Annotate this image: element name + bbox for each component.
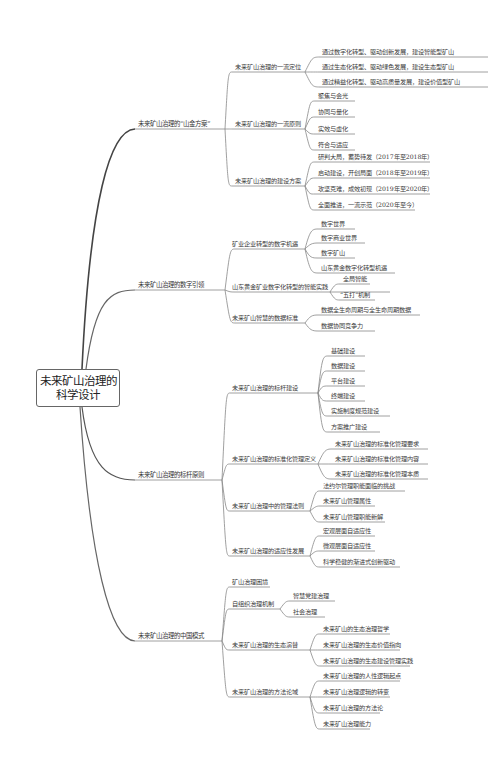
- node-construction-plan[interactable]: 未来矿山治理的建设方案: [235, 177, 301, 185]
- leaf[interactable]: 科学稳健的渐进式创新驱动: [323, 558, 395, 566]
- leaf[interactable]: 法约尔管理职能面临的挑战: [323, 482, 395, 490]
- leaf[interactable]: 未来矿山治理能力: [323, 720, 371, 728]
- node-self-organizing-mechanism[interactable]: 自组织治理机制: [232, 600, 274, 608]
- leaf[interactable]: 方案推广建设: [331, 423, 367, 431]
- leaf[interactable]: 符合与适应: [318, 141, 348, 149]
- leaf[interactable]: “五打”机制: [340, 291, 370, 299]
- leaf[interactable]: 未来矿山的生态治理哲学: [323, 625, 389, 633]
- node-methodology-domain[interactable]: 未来矿山治理的方法论域: [232, 688, 298, 696]
- leaf[interactable]: 未来矿山管理属性: [323, 497, 371, 505]
- branch-china-model[interactable]: 未来矿山治理的中国模式: [138, 632, 204, 640]
- leaf[interactable]: 未来矿山治理的标准化管理要求: [335, 440, 419, 448]
- leaf[interactable]: 未来矿山治理的方法论: [323, 704, 383, 712]
- leaf[interactable]: 通过生态化转型、驱动绿色发展，建设生态型矿山: [322, 63, 454, 71]
- leaf[interactable]: 未来矿山治理的生态价值指向: [323, 641, 401, 649]
- leaf[interactable]: 数据建设: [331, 362, 355, 370]
- leaf[interactable]: 实施制度规范建设: [331, 407, 379, 415]
- node-standardization-definition[interactable]: 未来矿山治理的标准化管理定义: [232, 455, 316, 463]
- leaf[interactable]: 实效与虚化: [318, 125, 348, 133]
- leaf[interactable]: 平台建设: [331, 377, 355, 385]
- leaf[interactable]: 未来矿山治理的标准化管理内容: [335, 455, 419, 463]
- leaf[interactable]: 数字世界: [321, 220, 345, 228]
- leaf[interactable]: 聚焦与会光: [318, 92, 348, 100]
- leaf[interactable]: 微观层面自适应性: [323, 542, 371, 550]
- leaf[interactable]: 通过精益化转型、驱动高质量发展，建设价值型矿山: [322, 78, 460, 86]
- leaf[interactable]: 数字商业世界: [321, 234, 357, 242]
- leaf[interactable]: 通过数字化转型、驱动创新发展，建设智能型矿山: [322, 48, 454, 56]
- leaf[interactable]: 未来矿山治理的生态建设管理实践: [323, 657, 413, 665]
- node-digital-opportunity[interactable]: 矿业企业转型的数字机遇: [232, 240, 298, 248]
- leaf[interactable]: 智慧党建治理: [293, 592, 329, 600]
- node-ecological-succession[interactable]: 未来矿山治理的生态演替: [232, 641, 298, 649]
- root-node[interactable]: 未来矿山治理的 科学设计: [36, 369, 120, 407]
- root-title-line1: 未来矿山治理的: [37, 374, 119, 388]
- node-benchmark-construction[interactable]: 未来矿山治理的标杆建设: [232, 384, 298, 392]
- node-adaptive-development[interactable]: 未来矿山治理的适应性发展: [232, 547, 304, 555]
- leaf[interactable]: 全面推进，一流示范（2020年至今）: [318, 201, 418, 209]
- leaf[interactable]: 未来矿山治理的标准化管理本质: [335, 470, 419, 478]
- leaf[interactable]: 终端建设: [331, 392, 355, 400]
- leaf[interactable]: 宏观层面自适应性: [323, 527, 371, 535]
- node-first-class-positioning[interactable]: 未来矿山治理的一流定位: [235, 63, 301, 71]
- leaf[interactable]: 基础建设: [331, 347, 355, 355]
- node-first-class-principle[interactable]: 未来矿山治理的一流原则: [235, 120, 301, 128]
- leaf[interactable]: 数据协同竞争力: [321, 322, 363, 330]
- root-title-line2: 科学设计: [37, 388, 119, 402]
- leaf[interactable]: 山东黄金数字化转型机遇: [321, 264, 387, 272]
- node-management-rules[interactable]: 未来矿山治理中的管理法则: [232, 502, 304, 510]
- branch-benchmark-principle[interactable]: 未来矿山治理的标杆原则: [138, 471, 204, 479]
- node-governance-dilemma[interactable]: 矿山治理困境: [232, 578, 268, 586]
- leaf[interactable]: 全局智能: [343, 275, 367, 283]
- node-data-standard[interactable]: 未来矿山智慧的数据标准: [232, 314, 298, 322]
- leaf[interactable]: 未来矿山治理的人性逻辑起点: [323, 672, 401, 680]
- leaf[interactable]: 社会治理: [293, 608, 317, 616]
- leaf[interactable]: 研判大局，蓄势待发（2017年至2018年）: [318, 153, 434, 161]
- leaf[interactable]: 未来矿山治理逻辑的转变: [323, 688, 389, 696]
- leaf[interactable]: 数字矿山: [321, 249, 345, 257]
- leaf[interactable]: 未来矿山管理职能新解: [323, 513, 383, 521]
- leaf[interactable]: 数据全生命周期与全生命周期数据: [321, 306, 411, 314]
- leaf[interactable]: 协同与量化: [318, 108, 348, 116]
- node-smart-practice[interactable]: 山东黄金矿业数字化转型的智能实践: [232, 283, 328, 291]
- leaf[interactable]: 启动建设，开创局面（2018年至2019年）: [318, 169, 434, 177]
- leaf[interactable]: 攻坚克难，成效初现（2019年至2020年）: [318, 185, 434, 193]
- branch-digital-lead[interactable]: 未来矿山治理的数字引领: [138, 281, 204, 289]
- branch-shanjin-plan[interactable]: 未来矿山治理的“山金方案”: [138, 120, 211, 128]
